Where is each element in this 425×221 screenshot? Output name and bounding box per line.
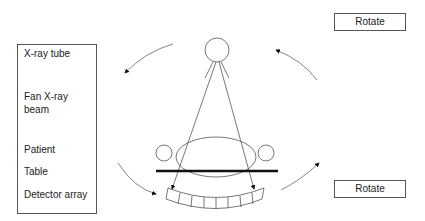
patient-arm-left-icon — [156, 145, 172, 161]
arrow-top-right-icon — [276, 50, 317, 80]
arrow-bottom-right-icon — [281, 163, 319, 190]
xray-tube-icon — [205, 38, 229, 62]
arrow-bottom-left-icon — [118, 163, 156, 194]
arrow-top-left-icon — [125, 44, 173, 73]
detector-array-icon — [166, 188, 264, 209]
ct-scanner-diagram — [0, 0, 425, 221]
patient-arm-right-icon — [258, 145, 274, 161]
tube-mount — [205, 62, 229, 78]
